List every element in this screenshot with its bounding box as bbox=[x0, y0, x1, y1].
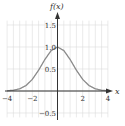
x-tick-label: −4 bbox=[2, 95, 13, 103]
y-axis-arrow-icon bbox=[55, 12, 60, 19]
chart: −4−2241.51.00.5−0.5 f(x) x bbox=[0, 0, 125, 126]
x-tick-label: −2 bbox=[27, 95, 37, 103]
x-tick-label: 2 bbox=[80, 95, 84, 103]
axes bbox=[5, 12, 113, 120]
y-tick-label: 1.0 bbox=[45, 44, 56, 52]
y-tick-label: 1.5 bbox=[45, 22, 56, 30]
tick-labels: −4−2241.51.00.5−0.5 bbox=[2, 22, 111, 118]
y-axis-label: f(x) bbox=[49, 2, 64, 11]
x-tick-label: 4 bbox=[106, 95, 111, 103]
y-tick-label: 0.5 bbox=[45, 66, 56, 74]
x-axis-label: x bbox=[115, 87, 120, 96]
y-tick-label: −0.5 bbox=[39, 110, 56, 118]
x-axis-arrow-icon bbox=[106, 89, 113, 94]
